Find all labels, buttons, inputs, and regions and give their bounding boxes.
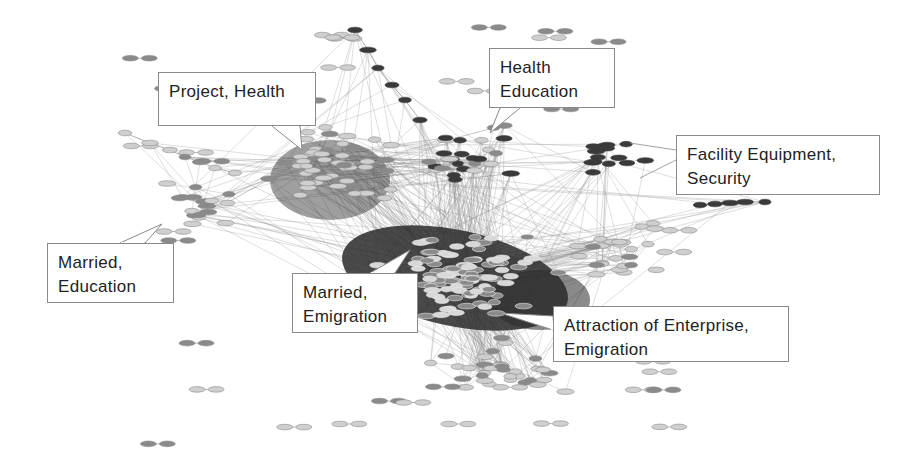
callout-line: Health <box>500 56 604 80</box>
callout-line: Married, <box>303 281 407 305</box>
callout-project-health: Project, Health <box>158 72 316 126</box>
callout-health-education: Health Education <box>489 48 615 108</box>
callout-line: Emigration <box>303 305 407 329</box>
callout-line: Project, Health <box>169 80 305 104</box>
callout-line: Attraction of Enterprise, <box>564 314 778 338</box>
network-graph <box>0 0 920 461</box>
callout-line: Facility Equipment, <box>687 143 869 167</box>
callout-married-emigration: Married, Emigration <box>292 273 418 333</box>
callout-facility-equipment-security: Facility Equipment, Security <box>676 135 880 195</box>
callout-line: Security <box>687 167 869 191</box>
callout-married-education: Married, Education <box>47 243 174 303</box>
callout-line: Married, <box>58 251 163 275</box>
callout-attraction-enterprise-emigration: Attraction of Enterprise, Emigration <box>553 306 789 362</box>
callout-line: Education <box>58 275 163 299</box>
callout-line: Education <box>500 80 604 104</box>
callout-line: Emigration <box>564 338 778 362</box>
